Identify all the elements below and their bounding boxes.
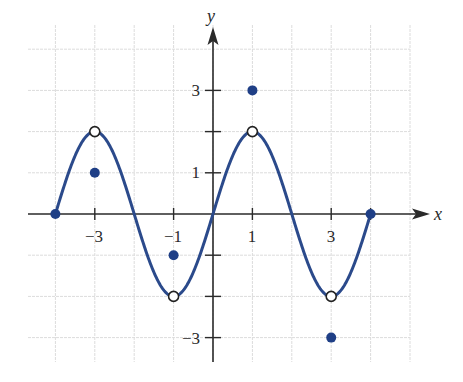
open-circle — [169, 291, 179, 301]
filled-dot — [247, 85, 257, 95]
x-axis-label: x — [433, 204, 442, 224]
filled-dot — [366, 209, 376, 219]
y-tick-label-1: 1 — [192, 163, 201, 182]
filled-dot — [326, 333, 336, 343]
y-tick-label-neg3: −3 — [182, 329, 200, 348]
x-tick-label-neg1: −1 — [164, 227, 182, 246]
x-tick-label-1: 1 — [248, 227, 257, 246]
x-tick-label-3: 3 — [327, 227, 336, 246]
y-axis-label: y — [205, 6, 215, 26]
y-tick-label-3: 3 — [192, 81, 201, 100]
filled-dot — [169, 250, 179, 260]
open-circle — [326, 291, 336, 301]
open-circle — [247, 127, 257, 137]
axes: x y — [28, 6, 442, 362]
filled-dot — [90, 168, 100, 178]
open-circle — [90, 127, 100, 137]
filled-dot — [50, 209, 60, 219]
x-tick-label-neg3: −3 — [85, 227, 103, 246]
function-graph: x y −3 −1 1 3 3 1 −3 — [0, 0, 463, 382]
